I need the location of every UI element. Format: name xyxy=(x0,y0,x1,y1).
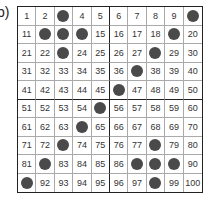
grid-cell: 77 xyxy=(128,137,146,156)
dot-icon xyxy=(149,47,161,59)
grid-cell: 61 xyxy=(18,118,36,137)
grid-cell: 42 xyxy=(36,81,54,100)
dot-icon xyxy=(168,28,180,40)
grid-cell-dotted xyxy=(92,100,110,119)
hundred-grid: 1245678911151617182021222425262729303132… xyxy=(17,6,203,193)
grid-cell: 80 xyxy=(184,137,202,156)
dot-icon xyxy=(149,177,161,189)
grid-cell: 94 xyxy=(73,174,91,193)
grid-cell: 57 xyxy=(128,100,146,119)
figure-label: b) xyxy=(0,4,9,20)
grid-cell: 65 xyxy=(92,118,110,137)
dot-icon xyxy=(57,47,69,59)
grid-cell: 50 xyxy=(184,81,202,100)
grid-cell-dotted xyxy=(128,155,146,174)
grid-cell: 30 xyxy=(184,44,202,63)
grid-cell: 70 xyxy=(184,118,202,137)
grid-cell-dotted xyxy=(36,155,54,174)
grid-cell: 63 xyxy=(55,118,73,137)
dot-icon xyxy=(187,10,199,22)
grid-cell: 43 xyxy=(55,81,73,100)
grid-cell: 79 xyxy=(165,137,183,156)
grid-cell: 83 xyxy=(55,155,73,174)
grid-cell: 45 xyxy=(92,81,110,100)
grid-cell: 97 xyxy=(128,174,146,193)
grid-cell: 20 xyxy=(184,26,202,45)
grid-cell-dotted xyxy=(147,137,165,156)
dot-icon xyxy=(131,158,143,170)
grid-cell: 38 xyxy=(147,63,165,82)
dot-icon xyxy=(149,139,161,151)
grid-cell: 47 xyxy=(128,81,146,100)
grid-cell-dotted xyxy=(165,26,183,45)
dot-icon xyxy=(94,102,106,114)
grid-cell: 6 xyxy=(110,7,128,26)
grid-cell-dotted xyxy=(55,26,73,45)
grid-cell: 40 xyxy=(184,63,202,82)
grid-cell-dotted xyxy=(147,44,165,63)
grid-cell: 59 xyxy=(165,100,183,119)
grid-cell-dotted xyxy=(147,174,165,193)
grid-cell: 84 xyxy=(73,155,91,174)
grid-cell: 100 xyxy=(184,174,202,193)
grid-cell: 53 xyxy=(55,100,73,119)
grid-cell: 44 xyxy=(73,81,91,100)
dot-icon xyxy=(57,139,69,151)
grid-cell-dotted xyxy=(147,155,165,174)
grid-cell: 21 xyxy=(18,44,36,63)
grid-cell: 85 xyxy=(92,155,110,174)
grid-cell-dotted xyxy=(110,81,128,100)
dot-icon xyxy=(131,65,143,77)
grid-cell: 58 xyxy=(147,100,165,119)
grid-cell: 35 xyxy=(92,63,110,82)
grid-cell: 31 xyxy=(18,63,36,82)
grid-cell: 17 xyxy=(128,26,146,45)
grid-cell: 76 xyxy=(110,137,128,156)
grid-cell: 7 xyxy=(128,7,146,26)
grid-cell: 39 xyxy=(165,63,183,82)
grid-cell-dotted xyxy=(36,26,54,45)
grid-cell: 62 xyxy=(36,118,54,137)
grid-cell: 29 xyxy=(165,44,183,63)
dot-icon xyxy=(149,158,161,170)
grid-cell: 54 xyxy=(73,100,91,119)
grid-cell: 66 xyxy=(110,118,128,137)
grid-cell: 75 xyxy=(92,137,110,156)
grid-cell: 33 xyxy=(55,63,73,82)
grid-cell: 93 xyxy=(55,174,73,193)
grid-cell: 71 xyxy=(18,137,36,156)
grid-cell: 24 xyxy=(73,44,91,63)
dot-icon xyxy=(57,28,69,40)
grid-cell: 48 xyxy=(147,81,165,100)
grid-cell: 67 xyxy=(128,118,146,137)
grid-cell: 9 xyxy=(165,7,183,26)
grid-cell: 51 xyxy=(18,100,36,119)
grid-cell-dotted xyxy=(128,63,146,82)
grid-cell: 86 xyxy=(110,155,128,174)
grid-cell-dotted xyxy=(18,174,36,193)
grid-cell: 49 xyxy=(165,81,183,100)
grid-cell: 22 xyxy=(36,44,54,63)
grid-cell: 36 xyxy=(110,63,128,82)
grid-cell-dotted xyxy=(184,7,202,26)
dot-icon xyxy=(21,177,33,189)
grid-cell: 34 xyxy=(73,63,91,82)
grid-cell: 68 xyxy=(147,118,165,137)
dot-icon xyxy=(168,158,180,170)
dot-icon xyxy=(76,121,88,133)
grid-cell: 56 xyxy=(110,100,128,119)
grid-cell-dotted xyxy=(73,118,91,137)
grid-cell-dotted xyxy=(55,137,73,156)
grid-cell: 81 xyxy=(18,155,36,174)
grid-cell: 1 xyxy=(18,7,36,26)
grid-cell: 16 xyxy=(110,26,128,45)
grid-cell: 32 xyxy=(36,63,54,82)
grid-cell: 8 xyxy=(147,7,165,26)
grid-cell: 27 xyxy=(128,44,146,63)
grid-cell-dotted xyxy=(165,155,183,174)
dot-icon xyxy=(76,28,88,40)
dot-icon xyxy=(39,28,51,40)
grid-cell: 72 xyxy=(36,137,54,156)
grid-cell: 96 xyxy=(110,174,128,193)
grid-cell: 4 xyxy=(73,7,91,26)
